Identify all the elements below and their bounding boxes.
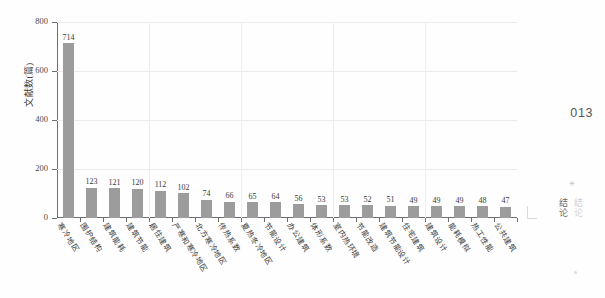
bar-item: 121 bbox=[109, 22, 120, 218]
y-axis-tick-label: 800 bbox=[35, 16, 48, 26]
bar-value-label: 49 bbox=[433, 196, 441, 205]
bar-value-label: 120 bbox=[132, 178, 144, 187]
bar-rect bbox=[500, 207, 511, 219]
bar-item: 112 bbox=[155, 22, 166, 218]
scan-edge-artifact bbox=[527, 206, 537, 219]
x-axis-category-label: 公共建筑 bbox=[492, 220, 519, 254]
bar-rect bbox=[293, 204, 304, 218]
x-axis-labels: 寒冷地区围护结构建筑能耗建筑节能居住建筑严寒和寒冷地区北方寒冷地区传热系数夏热冬… bbox=[57, 220, 517, 298]
bar-item: 714 bbox=[63, 22, 74, 218]
bar-value-label: 51 bbox=[387, 195, 395, 204]
bar-rect bbox=[132, 189, 143, 218]
bar-rect bbox=[270, 202, 281, 218]
bar-item: 120 bbox=[132, 22, 143, 218]
margin-section-tab: 结论 结论 bbox=[557, 198, 585, 218]
bar-rect bbox=[247, 202, 258, 218]
bar-rect bbox=[362, 205, 373, 218]
bar-value-label: 66 bbox=[226, 191, 234, 200]
y-axis-tick: 0 bbox=[52, 218, 57, 219]
bar-value-label: 49 bbox=[456, 196, 464, 205]
bar-chart-figure: 文献数(篇) 0200400600800 7141231211201121027… bbox=[0, 0, 540, 298]
bar-value-label: 74 bbox=[203, 189, 211, 198]
y-axis-tick-label: 0 bbox=[44, 212, 48, 222]
bar-rect bbox=[224, 202, 235, 218]
bar-rect bbox=[477, 206, 488, 218]
bar-item: 65 bbox=[247, 22, 258, 218]
bar-value-label: 52 bbox=[364, 195, 372, 204]
margin-tab-label: 结论 bbox=[557, 198, 570, 218]
bar-rect bbox=[86, 188, 97, 218]
bar-rect bbox=[201, 200, 212, 218]
bar-item: 102 bbox=[178, 22, 189, 218]
bar-item: 49 bbox=[431, 22, 442, 218]
bar-value-label: 48 bbox=[479, 196, 487, 205]
bar-value-label: 123 bbox=[86, 177, 98, 186]
bar-item: 74 bbox=[201, 22, 212, 218]
y-axis-tick-label: 600 bbox=[35, 65, 48, 75]
y-axis-title: 文献数(篇) bbox=[22, 30, 35, 140]
bar-item: 53 bbox=[339, 22, 350, 218]
document-page: 文献数(篇) 0200400600800 7141231211201121027… bbox=[0, 0, 605, 298]
scan-speck-artifact bbox=[574, 271, 577, 274]
bar-item: 123 bbox=[86, 22, 97, 218]
bar-item: 48 bbox=[477, 22, 488, 218]
page-number: 013 bbox=[570, 106, 593, 120]
bar-rect bbox=[431, 206, 442, 218]
bar-item: 49 bbox=[408, 22, 419, 218]
bar-value-label: 47 bbox=[502, 196, 510, 205]
bar-value-label: 53 bbox=[341, 195, 349, 204]
bar-value-label: 65 bbox=[249, 192, 257, 201]
bar-value-label: 102 bbox=[178, 183, 190, 192]
bar-rect bbox=[109, 188, 120, 218]
bar-item: 53 bbox=[316, 22, 327, 218]
x-axis-tick bbox=[517, 218, 518, 222]
margin-marker-icon: ✳ bbox=[569, 182, 573, 186]
bar-value-label: 121 bbox=[109, 178, 121, 187]
bar-rect bbox=[408, 206, 419, 218]
bar-value-label: 112 bbox=[155, 180, 167, 189]
y-axis-tick-label: 200 bbox=[35, 163, 48, 173]
bar-item: 66 bbox=[224, 22, 235, 218]
bar-rect bbox=[339, 205, 350, 218]
bar-rect bbox=[178, 193, 189, 218]
bar-rect bbox=[63, 43, 74, 218]
bar-item: 49 bbox=[454, 22, 465, 218]
y-axis-tick-label: 400 bbox=[35, 114, 48, 124]
bar-value-label: 64 bbox=[272, 192, 280, 201]
bar-rect bbox=[316, 205, 327, 218]
bar-item: 64 bbox=[270, 22, 281, 218]
bar-value-label: 49 bbox=[410, 196, 418, 205]
margin-tab-ghost-label: 结论 bbox=[572, 198, 585, 218]
bar-item: 52 bbox=[362, 22, 373, 218]
bar-item: 51 bbox=[385, 22, 396, 218]
bar-item: 47 bbox=[500, 22, 511, 218]
bar-item: 56 bbox=[293, 22, 304, 218]
bar-value-label: 53 bbox=[318, 195, 326, 204]
bar-value-label: 714 bbox=[63, 33, 75, 42]
bar-value-label: 56 bbox=[295, 194, 303, 203]
bar-rect bbox=[454, 206, 465, 218]
bar-rect bbox=[155, 191, 166, 218]
plot-area: 0200400600800 71412312112011210274666564… bbox=[57, 22, 517, 218]
bar-rect bbox=[385, 206, 396, 218]
bar-series: 7141231211201121027466656456535352514949… bbox=[57, 22, 517, 218]
